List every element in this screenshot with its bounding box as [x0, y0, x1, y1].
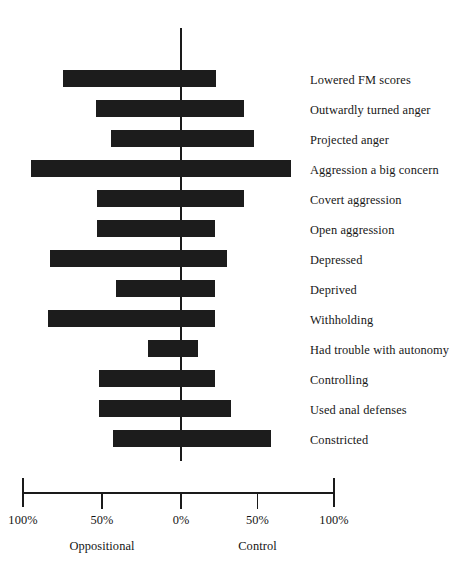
bar [31, 160, 291, 177]
bar [63, 70, 217, 87]
category-label: Withholding [310, 314, 373, 326]
axis-tick [333, 478, 335, 507]
zero-axis-line [180, 28, 182, 461]
plot-area: Lowered FM scoresOutwardly turned angerP… [0, 0, 475, 470]
axis-baseline [23, 492, 335, 494]
x-axis: 100%50%0%50%100% OppositionalControl [0, 470, 475, 572]
bar [50, 250, 227, 267]
category-label: Had trouble with autonomy [310, 344, 449, 356]
bar [99, 400, 232, 417]
bar [116, 280, 214, 297]
axis-tick-label: 50% [90, 514, 113, 526]
axis-tick-label: 50% [246, 514, 269, 526]
axis-tick-label: 0% [173, 514, 190, 526]
category-label: Controlling [310, 374, 368, 386]
category-label: Depressed [310, 254, 363, 266]
axis-group-label: Control [238, 540, 277, 552]
axis-tick [180, 493, 182, 509]
diverging-bar-chart: Lowered FM scoresOutwardly turned angerP… [0, 0, 475, 572]
category-label: Deprived [310, 284, 357, 296]
axis-group-label: Oppositional [69, 540, 134, 552]
category-label: Covert aggression [310, 194, 402, 206]
axis-tick [257, 493, 259, 509]
bar [148, 340, 198, 357]
bar [96, 100, 244, 117]
axis-tick [101, 493, 103, 509]
bar [111, 130, 254, 147]
axis-tick-label: 100% [319, 514, 348, 526]
bar [97, 220, 214, 237]
category-label: Outwardly turned anger [310, 104, 431, 116]
bar [99, 370, 215, 387]
bar [48, 310, 214, 327]
category-label: Aggression a big concern [310, 164, 439, 176]
category-label: Projected anger [310, 134, 389, 146]
category-label: Constricted [310, 434, 368, 446]
bar [113, 430, 271, 447]
axis-tick [22, 478, 24, 507]
category-label: Lowered FM scores [310, 74, 411, 86]
axis-tick-label: 100% [8, 514, 37, 526]
category-label: Used anal defenses [310, 404, 407, 416]
bar [97, 190, 243, 207]
category-label: Open aggression [310, 224, 394, 236]
